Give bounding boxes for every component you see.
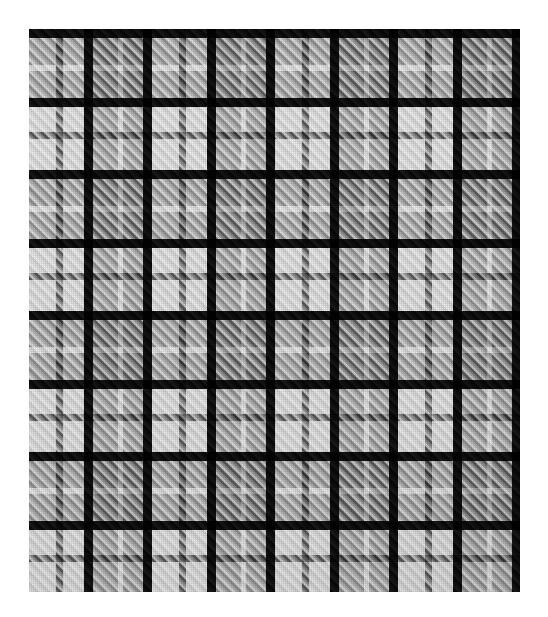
- swatch-canvas: [0, 0, 548, 617]
- warp-stripes-layer: [29, 29, 520, 592]
- fabric-grain-texture: [29, 29, 520, 592]
- weft-stripes-layer: [29, 29, 520, 592]
- cloth-blur-wrapper: [29, 29, 520, 592]
- tartan-cloth: [29, 29, 520, 592]
- twill-weave-texture: [29, 29, 520, 592]
- lighting-vignette: [29, 29, 520, 592]
